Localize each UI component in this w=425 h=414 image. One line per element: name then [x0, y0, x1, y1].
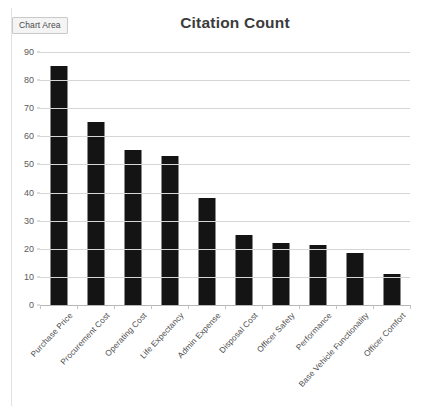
gridline — [40, 108, 410, 109]
gridline — [40, 221, 410, 222]
y-axis-tick-mark — [37, 108, 40, 109]
y-axis-tick-label: 20 — [8, 244, 34, 254]
chart-area-tooltip: Chart Area — [12, 17, 68, 34]
x-axis-category-label: Base Vehicle Functionality — [297, 311, 371, 389]
bar-slot — [225, 52, 262, 305]
gridline — [40, 52, 410, 53]
y-axis-tick-label: 60 — [8, 131, 34, 141]
y-axis-tick-mark — [37, 136, 40, 137]
bar-slot — [299, 52, 336, 305]
y-axis-tick-label: 10 — [8, 272, 34, 282]
bar[interactable] — [198, 198, 215, 305]
x-axis-label-text: Officer Safety — [255, 311, 296, 354]
x-axis-label-text: Base Vehicle Functionality — [297, 311, 371, 389]
gridline — [40, 164, 410, 165]
y-axis-tick-label: 30 — [8, 216, 34, 226]
x-axis-category-label: Officer Safety — [255, 311, 296, 354]
bar-slot — [262, 52, 299, 305]
bar-slot — [40, 52, 77, 305]
bar[interactable] — [272, 243, 289, 305]
bar-slot — [188, 52, 225, 305]
y-axis-tick-mark — [37, 52, 40, 53]
x-axis-label-text: Performance — [294, 311, 333, 352]
y-axis-tick-mark — [37, 80, 40, 81]
gridline — [40, 249, 410, 250]
y-axis-tick-label: 80 — [8, 75, 34, 85]
x-axis-tick-mark — [410, 305, 411, 309]
bar[interactable] — [383, 274, 400, 305]
x-axis-labels: Purchase PriceProcurement CostOperating … — [40, 307, 410, 412]
y-axis-tick-label: 50 — [8, 159, 34, 169]
bar[interactable] — [124, 150, 141, 305]
y-axis-tick-label: 40 — [8, 188, 34, 198]
gridline — [40, 136, 410, 137]
gridline — [40, 277, 410, 278]
bar-slot — [114, 52, 151, 305]
gridline — [40, 80, 410, 81]
bar[interactable] — [309, 245, 326, 305]
y-axis-tick-mark — [37, 248, 40, 249]
y-axis-tick-mark — [37, 276, 40, 277]
bar-slot — [151, 52, 188, 305]
bar[interactable] — [50, 66, 67, 305]
bar-slot — [336, 52, 373, 305]
y-axis-tick-label: 0 — [8, 300, 34, 310]
x-axis-category-label: Performance — [294, 311, 333, 352]
bar-slot — [373, 52, 410, 305]
x-axis-category-label: Disposal Cost — [217, 311, 259, 355]
y-axis-tick-label: 70 — [8, 103, 34, 113]
bar[interactable] — [346, 253, 363, 305]
x-axis-label-text: Disposal Cost — [217, 311, 259, 355]
bar[interactable] — [161, 156, 178, 305]
plot-area: 0102030405060708090 — [40, 52, 410, 305]
chart-container: Chart Area Citation Count 01020304050607… — [0, 0, 425, 414]
bars-layer — [40, 52, 410, 305]
y-axis-tick-mark — [37, 192, 40, 193]
gridline — [40, 193, 410, 194]
y-axis-tick-label: 90 — [8, 47, 34, 57]
y-axis-tick-mark — [37, 164, 40, 165]
y-axis-tick-mark — [37, 220, 40, 221]
bar-slot — [77, 52, 114, 305]
chart-title: Citation Count — [90, 14, 380, 32]
bar[interactable] — [235, 235, 252, 305]
